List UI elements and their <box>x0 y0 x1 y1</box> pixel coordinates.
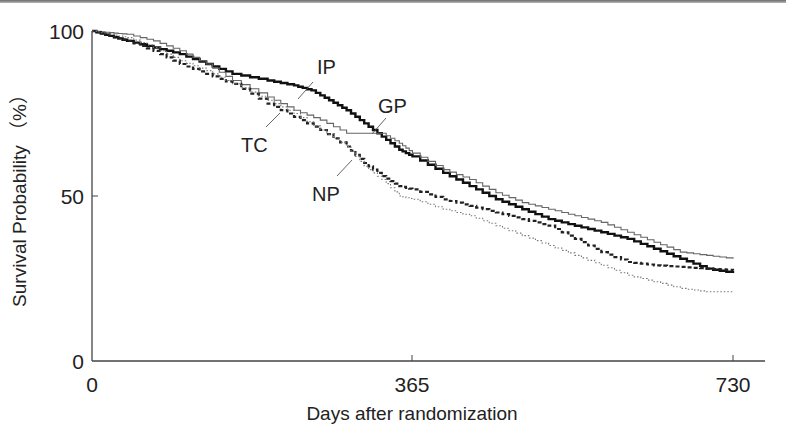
x-tick-label-730: 730 <box>715 373 750 396</box>
survival-curves <box>92 31 733 292</box>
survival-chart: 100 50 0 0 365 730 Days after randomizat… <box>0 0 786 437</box>
x-axis-title: Days after randomization <box>306 403 517 424</box>
y-tick-label-50: 50 <box>61 185 84 208</box>
y-axis-title: Survival Probability （%） <box>9 85 30 307</box>
tc-leader-line <box>266 113 280 127</box>
gp-label: GP <box>378 95 407 117</box>
np-leader-line <box>337 160 352 176</box>
x-tick-label-0: 0 <box>86 373 98 396</box>
y-tick-label-0: 0 <box>72 350 84 373</box>
curve-np <box>92 31 733 292</box>
curve-gp <box>92 31 733 259</box>
axes <box>92 31 765 361</box>
np-label: NP <box>312 183 340 205</box>
x-tick-label-365: 365 <box>394 373 429 396</box>
y-tick-label-100: 100 <box>49 20 84 43</box>
tc-label: TC <box>241 134 268 156</box>
ip-label: IP <box>317 56 336 78</box>
